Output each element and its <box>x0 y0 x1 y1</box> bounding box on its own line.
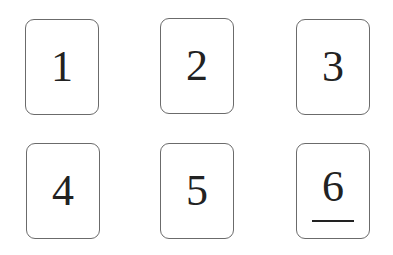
card-2[interactable]: 2 <box>160 18 234 114</box>
card-4[interactable]: 4 <box>26 143 100 239</box>
card-5[interactable]: 5 <box>160 143 234 239</box>
card-number: 1 <box>26 20 98 114</box>
card-number: 4 <box>27 144 99 238</box>
card-6[interactable]: 6 <box>296 143 370 239</box>
card-number: 6 <box>297 144 369 230</box>
card-number: 2 <box>161 19 233 113</box>
card-1[interactable]: 1 <box>25 19 99 115</box>
card-3[interactable]: 3 <box>296 19 370 115</box>
underline-mark <box>312 220 354 222</box>
card-number: 5 <box>161 144 233 238</box>
card-number: 3 <box>297 20 369 114</box>
